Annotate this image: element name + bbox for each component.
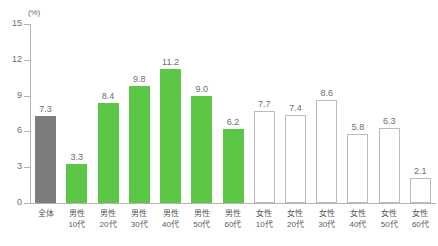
bar-value-label: 2.1 [414, 166, 427, 176]
x-category-label-line: 男性 [186, 208, 217, 219]
bar[interactable] [410, 178, 431, 203]
x-category-label-line: 全体 [30, 208, 61, 219]
bar[interactable] [285, 115, 306, 203]
x-category-label: 女性40代 [342, 208, 373, 230]
x-category-label: 男性40代 [155, 208, 186, 230]
bar-slot[interactable]: 6.2 [223, 24, 244, 203]
y-tick-label: 0 [0, 198, 22, 207]
bar-value-label: 6.3 [383, 116, 396, 126]
x-category-label-line: 男性 [217, 208, 248, 219]
y-tick-label: 15 [0, 19, 22, 28]
bar[interactable] [254, 111, 275, 203]
bar-slot[interactable]: 8.4 [98, 24, 119, 203]
x-category-label-line: 20代 [92, 219, 123, 230]
bar-slot[interactable]: 7.4 [285, 24, 306, 203]
bar-slot[interactable]: 2.1 [410, 24, 431, 203]
bar-value-label: 7.3 [39, 104, 52, 114]
bar[interactable] [379, 128, 400, 203]
plot-area: 7.33.38.49.811.29.06.27.77.48.65.86.32.1 [30, 24, 436, 203]
x-category-label: 女性50代 [374, 208, 405, 230]
bar-slot[interactable]: 9.0 [191, 24, 212, 203]
x-category-label-line: 男性 [155, 208, 186, 219]
bar-value-label: 7.4 [289, 103, 302, 113]
y-axis-unit-label: (%) [28, 8, 40, 17]
x-category-label: 男性20代 [92, 208, 123, 230]
bar-chart: (%) 03691215 7.33.38.49.811.29.06.27.77.… [0, 0, 438, 246]
y-tick-label: 9 [0, 91, 22, 100]
bar-slot[interactable]: 8.6 [316, 24, 337, 203]
bar[interactable] [316, 100, 337, 203]
x-category-label: 男性10代 [61, 208, 92, 230]
bar[interactable] [223, 129, 244, 203]
x-category-label-line: 30代 [124, 219, 155, 230]
x-category-label-line: 男性 [92, 208, 123, 219]
x-category-label-line: 10代 [249, 219, 280, 230]
bar-value-label: 8.4 [102, 91, 115, 101]
bar-slot[interactable]: 6.3 [379, 24, 400, 203]
x-category-label: 女性10代 [249, 208, 280, 230]
x-category-label-line: 20代 [280, 219, 311, 230]
y-tick-label: 6 [0, 126, 22, 135]
x-category-label-line: 男性 [124, 208, 155, 219]
bar-slot[interactable]: 7.7 [254, 24, 275, 203]
x-category-label: 全体 [30, 208, 61, 219]
x-category-label-line: 女性 [280, 208, 311, 219]
x-category-label-line: 60代 [405, 219, 436, 230]
x-category-label-line: 50代 [374, 219, 405, 230]
y-tick-label: 3 [0, 162, 22, 171]
bar-value-label: 9.8 [133, 74, 146, 84]
bar[interactable] [191, 96, 212, 203]
x-category-label: 男性50代 [186, 208, 217, 230]
bar-value-label: 7.7 [258, 99, 271, 109]
x-category-label-line: 40代 [342, 219, 373, 230]
x-category-label-line: 30代 [311, 219, 342, 230]
bar-value-label: 3.3 [71, 152, 84, 162]
bar[interactable] [66, 164, 87, 203]
bar[interactable] [347, 134, 368, 203]
bar-slot[interactable]: 5.8 [347, 24, 368, 203]
x-category-label-line: 60代 [217, 219, 248, 230]
x-category-label-line: 男性 [61, 208, 92, 219]
x-category-label-line: 女性 [374, 208, 405, 219]
x-category-label: 女性30代 [311, 208, 342, 230]
bar-slot[interactable]: 3.3 [66, 24, 87, 203]
x-category-label: 男性30代 [124, 208, 155, 230]
bar[interactable] [160, 69, 181, 203]
bar-value-label: 8.6 [320, 88, 333, 98]
x-category-label: 女性60代 [405, 208, 436, 230]
bar-slot[interactable]: 11.2 [160, 24, 181, 203]
bar-slot[interactable]: 9.8 [129, 24, 150, 203]
bar-value-label: 5.8 [352, 122, 365, 132]
bar-value-label: 9.0 [196, 84, 209, 94]
x-category-label-line: 女性 [249, 208, 280, 219]
bar[interactable] [35, 116, 56, 203]
bar-value-label: 11.2 [162, 57, 179, 67]
x-axis-baseline [30, 203, 436, 204]
bar-value-label: 6.2 [227, 117, 240, 127]
y-tick-mark [24, 203, 31, 204]
x-category-label-line: 女性 [342, 208, 373, 219]
y-tick-label: 12 [0, 55, 22, 64]
x-category-label-line: 10代 [61, 219, 92, 230]
x-category-label-line: 女性 [311, 208, 342, 219]
bar[interactable] [129, 86, 150, 203]
x-category-label: 女性20代 [280, 208, 311, 230]
bar[interactable] [98, 103, 119, 203]
x-category-label: 男性60代 [217, 208, 248, 230]
x-category-label-line: 女性 [405, 208, 436, 219]
x-category-label-line: 40代 [155, 219, 186, 230]
bar-slot[interactable]: 7.3 [35, 24, 56, 203]
x-axis-category-labels: 全体男性10代男性20代男性30代男性40代男性50代男性60代女性10代女性2… [30, 206, 436, 244]
x-category-label-line: 50代 [186, 219, 217, 230]
